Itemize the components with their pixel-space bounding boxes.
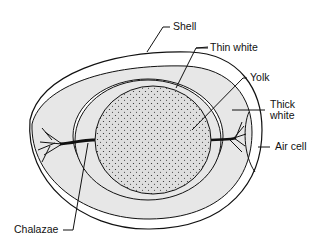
label-yolk: Yolk (250, 72, 269, 83)
egg-illustration (0, 0, 326, 243)
yolk (95, 86, 211, 194)
label-chalazae: Chalazae (14, 224, 58, 235)
egg-diagram: Shell Thin white Yolk Thick white Air ce… (0, 0, 326, 243)
label-thick-white-2: white (270, 110, 295, 121)
label-shell: Shell (173, 21, 196, 32)
label-thin-white: Thin white (210, 42, 258, 53)
label-air-cell: Air cell (275, 141, 307, 152)
